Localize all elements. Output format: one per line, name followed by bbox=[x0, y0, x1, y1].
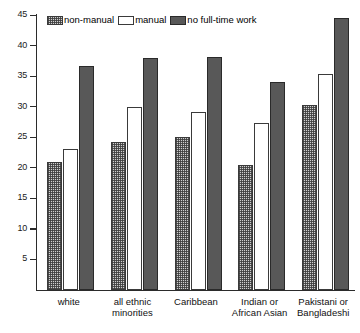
bar-no-full-time-work-3 bbox=[207, 57, 222, 290]
bar-manual-5 bbox=[318, 74, 333, 290]
bar-non-manual-4 bbox=[238, 165, 253, 290]
category-label-line: all ethnic bbox=[97, 296, 169, 307]
x-axis-line bbox=[36, 290, 355, 291]
bar-group-white bbox=[47, 0, 94, 290]
y-tick-label-25: 25 bbox=[3, 132, 27, 141]
bar-manual-1 bbox=[63, 149, 78, 290]
bar-non-manual-2 bbox=[111, 142, 126, 291]
y-tick-label-5: 5 bbox=[3, 254, 27, 263]
category-label-all-ethnic-minorities: all ethnicminorities bbox=[97, 296, 169, 318]
y-axis-line bbox=[36, 14, 37, 291]
category-label-indian-or-african-asian: Indian orAfrican Asian bbox=[224, 296, 296, 318]
bar-non-manual-1 bbox=[47, 162, 62, 290]
bar-no-full-time-work-4 bbox=[270, 82, 285, 290]
y-tick-40 bbox=[30, 45, 36, 46]
y-tick-20 bbox=[30, 167, 36, 168]
y-tick-35 bbox=[30, 76, 36, 77]
category-label-line: Caribbean bbox=[160, 296, 232, 307]
y-tick-label-35: 35 bbox=[3, 71, 27, 80]
bar-manual-3 bbox=[191, 112, 206, 290]
y-tick-30 bbox=[30, 106, 36, 107]
bar-non-manual-5 bbox=[302, 105, 317, 290]
y-tick-label-10: 10 bbox=[3, 224, 27, 233]
bar-manual-4 bbox=[254, 123, 269, 290]
category-label-line: white bbox=[33, 296, 105, 307]
y-tick-label-20: 20 bbox=[3, 163, 27, 172]
y-tick-15 bbox=[30, 198, 36, 199]
bar-non-manual-3 bbox=[175, 137, 190, 290]
bar-no-full-time-work-1 bbox=[79, 66, 94, 290]
bar-group-pakistani-or-bangladeshi bbox=[302, 0, 349, 290]
category-label-line: Pakistani or bbox=[287, 296, 359, 307]
bar-no-full-time-work-2 bbox=[143, 58, 158, 290]
bar-group-all-ethnic-minorities bbox=[111, 0, 158, 290]
category-label-caribbean: Caribbean bbox=[160, 296, 232, 307]
bar-chart: non-manual manual no full-time work 5101… bbox=[0, 0, 360, 333]
category-label-line: Bangladeshi bbox=[287, 307, 359, 318]
bar-group-caribbean bbox=[175, 0, 222, 290]
y-tick-25 bbox=[30, 137, 36, 138]
bar-manual-2 bbox=[127, 107, 142, 290]
category-label-pakistani-or-bangladeshi: Pakistani orBangladeshi bbox=[287, 296, 359, 318]
category-label-line: minorities bbox=[97, 307, 169, 318]
category-label-line: Indian or bbox=[224, 296, 296, 307]
category-label-white: white bbox=[33, 296, 105, 307]
y-tick-45 bbox=[30, 15, 36, 16]
y-tick-label-30: 30 bbox=[3, 102, 27, 111]
y-tick-label-45: 45 bbox=[3, 10, 27, 19]
y-tick-label-40: 40 bbox=[3, 41, 27, 50]
y-tick-10 bbox=[30, 228, 36, 229]
y-tick-label-15: 15 bbox=[3, 193, 27, 202]
bar-no-full-time-work-5 bbox=[334, 18, 349, 290]
category-label-line: African Asian bbox=[224, 307, 296, 318]
bar-group-indian-or-african-asian bbox=[238, 0, 285, 290]
y-tick-5 bbox=[30, 259, 36, 260]
